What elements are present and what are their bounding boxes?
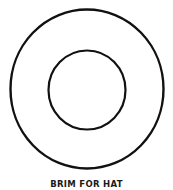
outer-circle [11, 10, 164, 169]
inner-circle [49, 51, 126, 130]
brim-diagram [0, 0, 173, 190]
diagram-caption: BRIM FOR HAT [0, 179, 173, 189]
